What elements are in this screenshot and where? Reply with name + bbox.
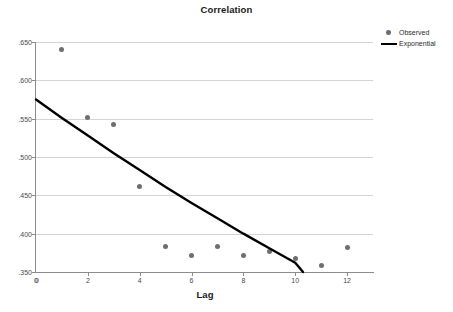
- data-point: [163, 244, 168, 249]
- legend-label-observed: Observed: [397, 29, 429, 36]
- y-axis-tick-mark: [32, 42, 35, 43]
- x-axis-tick-label: 8: [231, 277, 255, 284]
- exponential-line-icon: [381, 38, 397, 49]
- x-axis-tick-mark: [295, 273, 296, 276]
- correlation-chart: Correlation .350.400.450.500.550.600.650…: [0, 0, 453, 312]
- y-axis-tick-label: .550: [4, 115, 32, 122]
- data-point: [267, 249, 272, 254]
- data-point: [215, 244, 220, 249]
- y-axis-tick-mark: [32, 195, 35, 196]
- data-point: [189, 253, 194, 258]
- gridline-horizontal: [36, 80, 373, 81]
- x-axis-tick-mark: [192, 273, 193, 276]
- x-axis-title: Lag: [36, 289, 374, 300]
- data-point: [59, 47, 64, 52]
- x-axis-tick-label: 2: [76, 277, 100, 284]
- y-axis-tick-labels: .350.400.450.500.550.600.650: [0, 0, 32, 312]
- observed-marker-icon: [381, 27, 397, 38]
- x-axis-tick-mark: [140, 273, 141, 276]
- x-axis-tick-label: 4: [128, 277, 152, 284]
- data-point: [241, 253, 246, 258]
- gridline-horizontal: [36, 234, 373, 235]
- data-point: [137, 184, 142, 189]
- plot-area: [36, 42, 373, 272]
- x-axis-tick-mark: [243, 273, 244, 276]
- gridline-horizontal: [36, 157, 373, 158]
- legend-item-exponential: Exponential: [381, 38, 453, 49]
- y-axis-tick-mark: [32, 80, 35, 81]
- gridline-horizontal: [36, 42, 373, 43]
- y-axis-tick-label: .600: [4, 77, 32, 84]
- x-axis-tick-label: 6: [180, 277, 204, 284]
- y-axis-tick-label: .500: [4, 154, 32, 161]
- data-point: [111, 122, 116, 127]
- y-axis-tick-label: .450: [4, 192, 32, 199]
- x-axis-tick-label: 10: [283, 277, 307, 284]
- y-axis-tick-label: .400: [4, 230, 32, 237]
- chart-title: Correlation: [0, 4, 453, 15]
- x-axis-tick-mark: [88, 273, 89, 276]
- data-point: [319, 263, 324, 268]
- data-point: [345, 245, 350, 250]
- y-axis-tick-mark: [32, 119, 35, 120]
- y-axis-tick-mark: [32, 234, 35, 235]
- x-axis-tick-label: 0: [24, 277, 48, 284]
- data-point: [293, 256, 298, 261]
- x-axis-tick-label: 12: [335, 277, 359, 284]
- x-axis-line: [36, 272, 374, 273]
- y-axis-tick-mark: [32, 157, 35, 158]
- y-axis-line: [35, 42, 36, 273]
- legend-label-exponential: Exponential: [397, 40, 436, 47]
- chart-legend: Observed Exponential: [381, 27, 453, 49]
- legend-item-observed: Observed: [381, 27, 453, 38]
- x-axis-tick-mark: [347, 273, 348, 276]
- y-axis-tick-label: .350: [4, 269, 32, 276]
- gridline-horizontal: [36, 195, 373, 196]
- y-axis-tick-label: .650: [4, 39, 32, 46]
- y-axis-tick-mark: [32, 272, 35, 273]
